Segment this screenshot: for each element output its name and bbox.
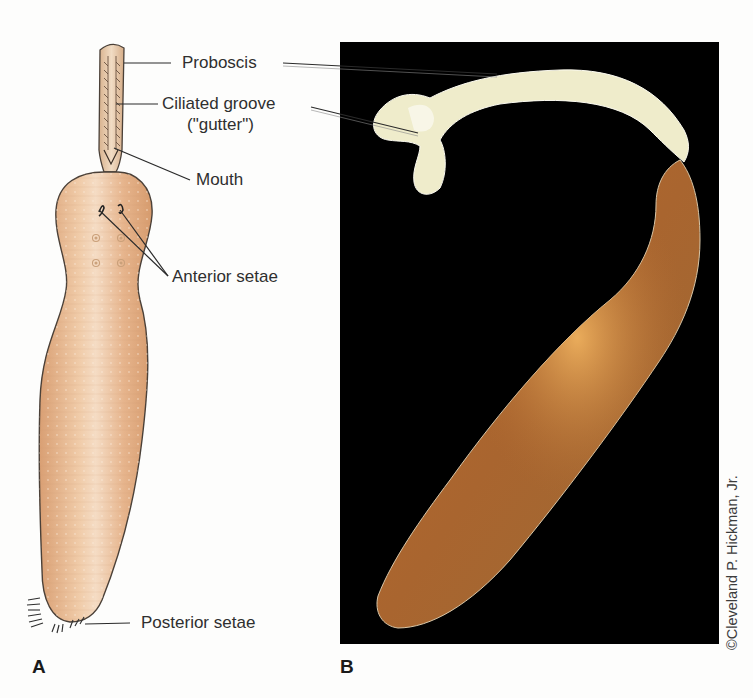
label-anterior-setae: Anterior setae bbox=[172, 267, 278, 287]
figure: Proboscis Ciliated groove ("gutter") Mou… bbox=[0, 0, 753, 698]
panel-a-illustration bbox=[27, 44, 152, 633]
label-posterior-setae: Posterior setae bbox=[141, 613, 255, 633]
label-proboscis: Proboscis bbox=[182, 53, 257, 73]
label-ciliated-groove-alt: ("gutter") bbox=[187, 115, 254, 135]
proboscis-drawing bbox=[99, 44, 124, 172]
figure-artwork bbox=[0, 0, 753, 698]
panel-b-photo bbox=[340, 42, 719, 644]
panel-letter-b: B bbox=[340, 656, 354, 678]
panel-letter-a: A bbox=[32, 656, 46, 678]
photo-credit: ©Cleveland P. Hickman, Jr. bbox=[724, 475, 740, 650]
label-ciliated-groove: Ciliated groove bbox=[162, 94, 275, 114]
label-mouth: Mouth bbox=[196, 170, 243, 190]
